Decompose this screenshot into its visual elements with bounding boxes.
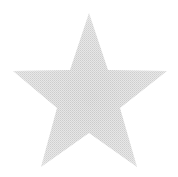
star-graphic: [0, 0, 178, 177]
star-fade-overlay: [13, 13, 167, 167]
canvas: [0, 0, 178, 177]
